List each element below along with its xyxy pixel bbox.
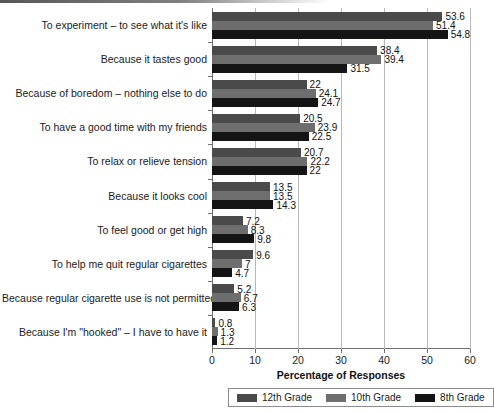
bar-row: 22.2 [212, 157, 470, 166]
x-axis-tick-10 [255, 349, 256, 353]
category-label: To have a good time with my friends [2, 121, 207, 133]
bar-8th-grade [212, 166, 307, 175]
bar-12th-grade [212, 182, 270, 191]
bar-10th-grade [212, 123, 315, 132]
category-label: Because of boredom – nothing else to do [2, 87, 207, 99]
bar-8th-grade [212, 30, 448, 39]
bar-value-label: 24.7 [318, 97, 340, 108]
bar-row: 22 [212, 80, 470, 89]
bar-row: 39.4 [212, 55, 470, 64]
bar-10th-grade [212, 293, 241, 302]
legend-label: 12th Grade [262, 392, 312, 403]
bar-10th-grade [212, 89, 316, 98]
bar-row: 13.5 [212, 191, 470, 200]
bar-value-label: 54.8 [448, 29, 470, 40]
x-axis-tick-40 [384, 349, 385, 353]
y-axis-tick [208, 179, 212, 180]
y-axis-tick [208, 213, 212, 214]
y-axis-tick [208, 110, 212, 111]
bar-8th-grade [212, 98, 318, 107]
bar-row: 51.4 [212, 21, 470, 30]
bar-row: 9.8 [212, 234, 470, 243]
y-axis-tick [208, 42, 212, 43]
x-axis-tick-50 [427, 349, 428, 353]
legend-item-8th-grade[interactable]: 8th Grade [415, 392, 484, 403]
bar-8th-grade [212, 132, 309, 141]
bar-row: 8.3 [212, 225, 470, 234]
x-axis-tick-label: 10 [249, 354, 261, 366]
x-axis-tick-0 [212, 349, 213, 353]
chart-legend: 12th Grade10th Grade8th Grade [228, 388, 494, 407]
y-axis-tick [208, 76, 212, 77]
legend-label: 8th Grade [440, 392, 484, 403]
bar-row: 1.2 [212, 336, 470, 345]
bar-row: 24.1 [212, 89, 470, 98]
category-label: To relax or relieve tension [2, 155, 207, 167]
bar-12th-grade [212, 216, 243, 225]
category-label-column: To experiment – to see what it's likeBec… [0, 8, 207, 349]
category-label: To experiment – to see what it's like [2, 19, 207, 31]
bar-10th-grade [212, 157, 307, 166]
legend-swatch [415, 394, 435, 402]
bar-row: 53.6 [212, 12, 470, 21]
gridline-60 [470, 8, 471, 349]
bar-row: 1.3 [212, 327, 470, 336]
legend-swatch [326, 394, 346, 402]
bar-8th-grade [212, 268, 232, 277]
bar-12th-grade [212, 46, 377, 55]
bar-10th-grade [212, 225, 248, 234]
category-label: Because regular cigarette use is not per… [2, 292, 207, 304]
y-axis-tick [208, 315, 212, 316]
bar-row: 54.8 [212, 30, 470, 39]
bar-value-label: 1.2 [217, 335, 234, 346]
x-axis-tick-30 [341, 349, 342, 353]
legend-swatch [237, 394, 257, 402]
legend-label: 10th Grade [351, 392, 401, 403]
bar-value-label: 6.3 [239, 301, 256, 312]
bar-12th-grade [212, 80, 307, 89]
x-axis-tick-label: 30 [335, 354, 347, 366]
bar-row: 13.5 [212, 182, 470, 191]
bar-row: 23.9 [212, 123, 470, 132]
bar-12th-grade [212, 12, 442, 21]
bar-12th-grade [212, 148, 301, 157]
bar-row: 24.7 [212, 98, 470, 107]
bar-8th-grade [212, 200, 273, 209]
bar-8th-grade [212, 234, 254, 243]
bar-12th-grade [212, 284, 234, 293]
y-axis-tick [208, 247, 212, 248]
bar-value-label: 22.5 [309, 131, 331, 142]
bar-row: 0.8 [212, 318, 470, 327]
category-label: To feel good or get high [2, 224, 207, 236]
bar-row: 22 [212, 166, 470, 175]
legend-item-10th-grade[interactable]: 10th Grade [326, 392, 401, 403]
x-axis-tick-label: 60 [464, 354, 476, 366]
bar-value-label: 31.5 [347, 63, 369, 74]
bar-row: 31.5 [212, 64, 470, 73]
bar-row: 4.7 [212, 268, 470, 277]
category-label: Because it looks cool [2, 190, 207, 202]
bar-value-label: 4.7 [232, 267, 249, 278]
x-axis-tick-label: 50 [421, 354, 433, 366]
x-axis-tick-60 [470, 349, 471, 353]
bar-row: 22.5 [212, 132, 470, 141]
bar-row: 38.4 [212, 46, 470, 55]
x-axis-tick-label: 0 [209, 354, 215, 366]
bar-row: 20.5 [212, 114, 470, 123]
bar-value-label: 14.3 [273, 199, 295, 210]
bar-10th-grade [212, 21, 433, 30]
bar-row: 14.3 [212, 200, 470, 209]
bar-10th-grade [212, 191, 270, 200]
y-axis-tick [208, 144, 212, 145]
x-axis-title: Percentage of Responses [212, 369, 470, 381]
bar-8th-grade [212, 302, 239, 311]
legend-item-12th-grade[interactable]: 12th Grade [237, 392, 312, 403]
y-axis-tick [208, 281, 212, 282]
bar-row: 20.7 [212, 148, 470, 157]
bar-12th-grade [212, 114, 300, 123]
x-axis-tick-20 [298, 349, 299, 353]
category-label: To help me quit regular cigarettes [2, 258, 207, 270]
bar-row: 6.3 [212, 302, 470, 311]
bar-row: 7 [212, 259, 470, 268]
